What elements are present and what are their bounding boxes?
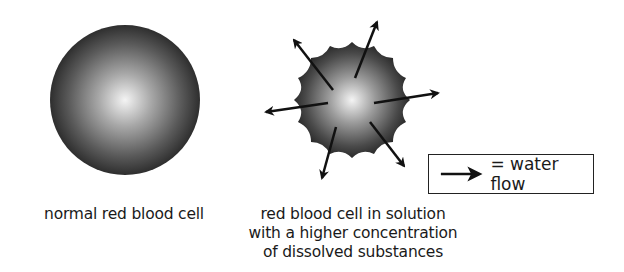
arrow-icon [439, 164, 484, 184]
caption-line: red blood cell in solution [248, 205, 458, 224]
legend-box: = water flow [428, 154, 594, 194]
caption-line: with a higher concentration [248, 224, 458, 243]
normal-cell-caption: normal red blood cell [24, 205, 224, 224]
crenated-cell-caption: red blood cell in solution with a higher… [248, 205, 458, 262]
caption-line: of dissolved substances [248, 243, 458, 262]
normal-red-blood-cell [50, 25, 200, 175]
legend-text: = water flow [490, 154, 593, 194]
normal-cell-label: normal red blood cell [44, 205, 204, 223]
